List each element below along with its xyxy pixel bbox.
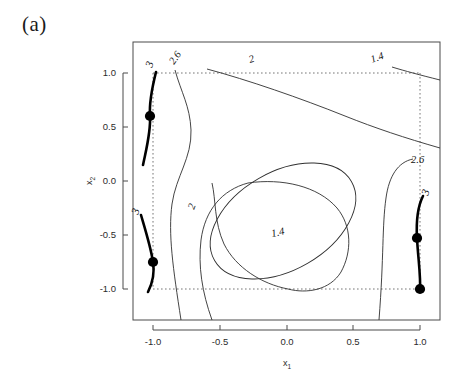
bold-curve-left-lower (141, 215, 154, 292)
y-axis (123, 73, 128, 289)
contour-label-2-left: 2 (186, 201, 198, 210)
y-axis-title-sub: 2 (89, 177, 96, 181)
contour-label-3-bottomleft: 3 (128, 206, 142, 216)
y-axis-title: x2 (84, 177, 96, 186)
x-tick-label-0: -1.0 (145, 336, 161, 347)
contour-1p4-topright (392, 67, 440, 80)
marker-point-right-upper (412, 233, 422, 243)
panel-label: (a) (22, 12, 47, 37)
contour-plot-figure: (a) (0, 0, 466, 375)
contour-label-2p6-topleft: 2.6 (167, 48, 184, 66)
contour-label-group: 3 2.6 2 1.4 2.6 3 2 3 1.4 (128, 48, 432, 238)
x-tick-label-4: 1.0 (413, 336, 426, 347)
x-axis-title-sub: 1 (287, 363, 291, 370)
x-tick-label-2: 0.0 (280, 336, 293, 347)
y-tick-label-0: 1.0 (103, 67, 116, 78)
contour-label-2-top: 2 (247, 53, 256, 65)
x-tick-label-3: 0.5 (346, 336, 359, 347)
contour-label-1p4-topright: 1.4 (369, 50, 386, 65)
contour-1p4-ellipse (190, 139, 376, 303)
contour-2-left-lower (200, 183, 248, 320)
contour-label-3-right: 3 (418, 187, 432, 197)
y-tick-label-2: 0.0 (103, 175, 116, 186)
contour-label-2p6-right: 2.6 (411, 154, 425, 165)
contour-label-3-topleft: 3 (142, 59, 156, 69)
x-tick-labels: -1.0 -0.5 0.0 0.5 1.0 (145, 336, 427, 347)
contour-2p6-left (171, 70, 191, 320)
y-tick-label-1: 0.5 (103, 121, 116, 132)
marker-point-left-upper (145, 111, 155, 121)
contour-2-top (207, 69, 440, 148)
x-axis-title: x1 (283, 358, 292, 370)
contour-2p6-right (379, 159, 413, 320)
contour-label-1p4-center: 1.4 (270, 225, 286, 239)
marker-point-right-lower (415, 284, 425, 294)
y-tick-labels: 1.0 0.5 0.0 -0.5 -1.0 (100, 67, 116, 294)
x-tick-label-1: -0.5 (212, 336, 228, 347)
y-tick-label-4: -1.0 (100, 283, 116, 294)
reference-lines (153, 73, 420, 289)
x-axis (153, 325, 420, 330)
contour-2-right-inner (248, 182, 349, 291)
marker-point-left-lower (148, 257, 158, 267)
y-tick-label-3: -0.5 (100, 229, 116, 240)
contour-lines (171, 67, 440, 320)
plot-svg: 3 2.6 2 1.4 2.6 3 2 3 1.4 -1.0 -0.5 0.0 … (0, 0, 466, 375)
